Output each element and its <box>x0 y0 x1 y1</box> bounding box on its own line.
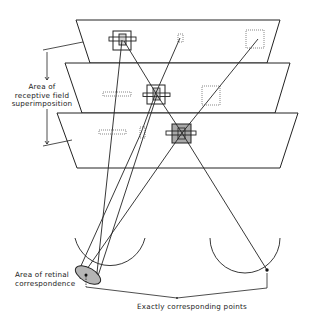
retinal-correspondence-label: Area of retinal correspondence <box>15 271 77 288</box>
corresponding-points-bracket <box>86 273 267 298</box>
exactly-corresponding-points-label: Exactly corresponding points <box>117 303 267 312</box>
label-line: correspondence <box>15 280 77 289</box>
right-corresponding-point <box>265 268 268 271</box>
receptive-field-label: Area of receptive field superimposition <box>5 83 79 109</box>
middle-plane <box>65 63 290 113</box>
retinal-correspondence-ellipse <box>72 262 103 288</box>
right-eye-arc <box>210 238 280 273</box>
label-line: superimposition <box>5 100 79 109</box>
left-eye-arc <box>75 238 145 266</box>
